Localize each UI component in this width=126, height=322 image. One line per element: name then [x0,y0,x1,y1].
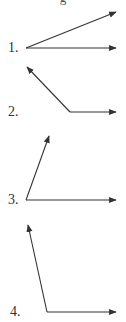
ray-a-arrow [26,12,116,48]
angle-diagram-2 [27,67,116,112]
ray-a-arrow [28,225,47,312]
ray-a-arrow [27,67,70,112]
diagram-label-2: 2. [8,105,19,119]
diagram-label-3: 3. [8,193,19,207]
diagram-label-1: 1. [8,41,19,55]
angle-diagram-4 [28,225,116,312]
diagram-label-4: 4. [10,305,21,319]
angle-diagram-3 [26,136,116,200]
ray-a-arrow [26,136,49,200]
angle-diagram-1 [26,12,116,48]
angle-diagrams [0,0,126,322]
